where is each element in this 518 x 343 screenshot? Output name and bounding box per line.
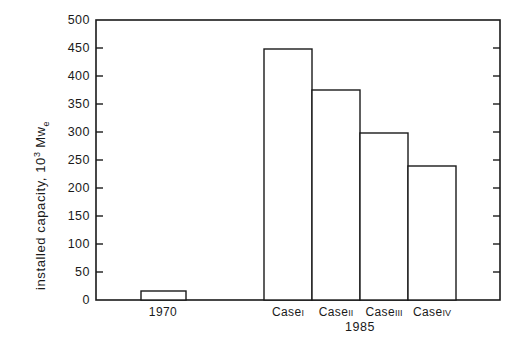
x-tick-label-case-iv: CaseIV [402, 305, 462, 319]
bar-chart: installed capacity, 103 Mwe 500 450 400 … [0, 0, 518, 343]
bar-case-iii [360, 133, 408, 300]
x-tick-label-case-iv-text: Case [413, 305, 443, 319]
x-tick-label-case-i-roman: I [302, 308, 305, 318]
x-tick-label-case-ii-text: Case [319, 305, 349, 319]
bar-case-i [264, 49, 312, 300]
x-axis-group-label-1985: 1985 [300, 320, 420, 334]
plot-area [0, 0, 518, 343]
x-tick-label-case-iii-text: Case [365, 305, 395, 319]
x-tick-label-1970-text: 1970 [149, 305, 177, 319]
x-tick-label-1970: 1970 [123, 305, 203, 319]
x-tick-label-case-ii-roman: II [348, 308, 353, 318]
x-tick-label-case-i-text: Case [272, 305, 302, 319]
bar-case-ii [312, 90, 360, 300]
x-tick-label-case-iv-roman: IV [443, 308, 452, 318]
bar-1970 [141, 291, 186, 300]
bar-case-iv [408, 166, 456, 300]
